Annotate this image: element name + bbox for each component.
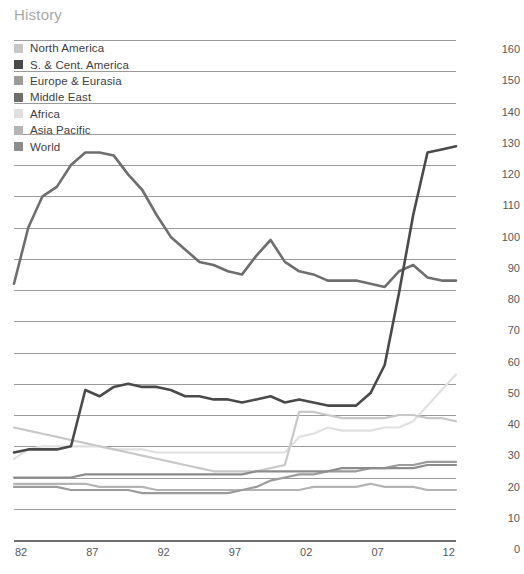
y-tick-80: 80 bbox=[476, 293, 520, 305]
x-tick-87: 87 bbox=[86, 546, 98, 558]
x-tick-92: 92 bbox=[157, 546, 169, 558]
legend-item[interactable]: World bbox=[14, 138, 244, 154]
y-tick-20: 20 bbox=[476, 481, 520, 493]
y-tick-150: 150 bbox=[476, 74, 520, 86]
y-tick-70: 70 bbox=[476, 324, 520, 336]
x-tick-02: 02 bbox=[300, 546, 312, 558]
series-line bbox=[14, 462, 456, 493]
legend: North AmericaS. & Cent. AmericaEurope & … bbox=[14, 40, 244, 155]
x-axis-line bbox=[14, 540, 456, 542]
series-line bbox=[14, 146, 456, 452]
y-tick-90: 90 bbox=[476, 262, 520, 274]
legend-swatch-icon bbox=[14, 126, 23, 135]
y-tick-0: 0 bbox=[476, 543, 520, 555]
legend-item[interactable]: S. & Cent. America bbox=[14, 56, 244, 72]
legend-swatch-icon bbox=[14, 109, 23, 118]
y-tick-140: 140 bbox=[476, 106, 520, 118]
legend-swatch-icon bbox=[14, 93, 23, 102]
legend-item[interactable]: Africa bbox=[14, 106, 244, 122]
legend-label: Africa bbox=[30, 108, 60, 120]
legend-label: S. & Cent. America bbox=[30, 59, 129, 71]
legend-swatch-icon bbox=[14, 44, 23, 53]
legend-item[interactable]: Middle East bbox=[14, 89, 244, 105]
y-tick-160: 160 bbox=[476, 43, 520, 55]
y-tick-120: 120 bbox=[476, 168, 520, 180]
legend-swatch-icon bbox=[14, 76, 23, 85]
legend-item[interactable]: Europe & Eurasia bbox=[14, 73, 244, 89]
y-tick-40: 40 bbox=[476, 418, 520, 430]
x-tick-97: 97 bbox=[229, 546, 241, 558]
legend-swatch-icon bbox=[14, 60, 23, 69]
y-tick-100: 100 bbox=[476, 231, 520, 243]
footnote bbox=[8, 566, 338, 574]
y-tick-30: 30 bbox=[476, 449, 520, 461]
series-line bbox=[14, 153, 456, 287]
x-tick-82: 82 bbox=[15, 546, 27, 558]
legend-item[interactable]: Asia Pacific bbox=[14, 122, 244, 138]
page-title: History bbox=[14, 6, 62, 23]
series-line bbox=[14, 412, 456, 471]
x-tick-12: 12 bbox=[443, 546, 455, 558]
legend-label: Europe & Eurasia bbox=[30, 75, 122, 87]
chart-panel: History 16015014013012011010090807060504… bbox=[0, 0, 524, 574]
legend-label: Middle East bbox=[30, 91, 91, 103]
y-tick-10: 10 bbox=[476, 512, 520, 524]
x-tick-07: 07 bbox=[371, 546, 383, 558]
legend-swatch-icon bbox=[14, 142, 23, 151]
legend-item[interactable]: North America bbox=[14, 40, 244, 56]
y-tick-130: 130 bbox=[476, 137, 520, 149]
y-tick-60: 60 bbox=[476, 356, 520, 368]
y-tick-50: 50 bbox=[476, 387, 520, 399]
legend-label: Asia Pacific bbox=[30, 124, 91, 136]
legend-label: North America bbox=[30, 42, 104, 54]
legend-label: World bbox=[30, 141, 60, 153]
y-tick-110: 110 bbox=[476, 199, 520, 211]
